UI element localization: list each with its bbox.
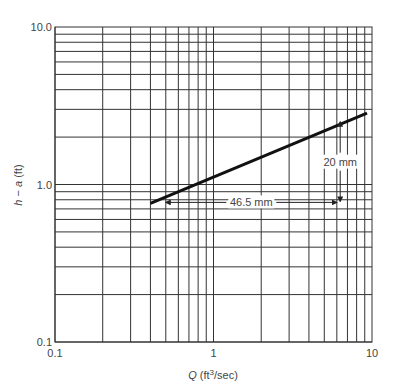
y-tick-label: 0.1 [37,336,52,348]
y-tick-label: 1.0 [37,179,52,191]
y-tick-label: 10.0 [31,21,52,33]
y-axis-label: h − a (ft) [12,164,24,205]
horizontal-dimension-label: 46.5 mm [230,196,273,208]
tick-labels: 0.11100.11.010.0 [31,21,379,359]
grid [55,27,372,342]
x-tick-label: 0.1 [47,347,62,359]
vertical-dimension-label: 20 mm [323,156,357,168]
x-axis-label: Q (ft3/sec) [188,368,238,381]
annotations: 46.5 mm20 mm [166,122,360,209]
x-tick-label: 1 [210,347,216,359]
x-tick-label: 10 [366,347,378,359]
log-log-chart: 0.11100.11.010.0 46.5 mm20 mm Q (ft3/sec… [0,0,395,391]
